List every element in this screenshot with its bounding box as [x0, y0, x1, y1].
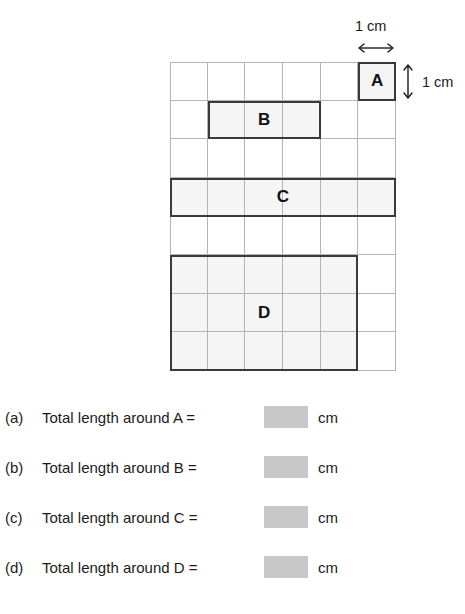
grid-cell	[170, 139, 208, 178]
double-arrow-vertical-icon	[402, 62, 414, 101]
question-row: (c)Total length around C =cm	[0, 492, 465, 542]
question-row: (d)Total length around D =cm	[0, 542, 465, 592]
grid-cell	[208, 139, 246, 178]
grid-cell	[245, 139, 283, 178]
shape-c: C	[170, 178, 396, 217]
shape-b: B	[208, 101, 321, 140]
shape-d: D	[170, 255, 358, 371]
grid-cell	[358, 255, 396, 294]
grid-cell	[321, 62, 359, 101]
grid-cell	[321, 217, 359, 256]
question-text: Total length around D =	[42, 559, 198, 576]
question-text: Total length around A =	[42, 409, 195, 426]
question-marker: (b)	[5, 459, 23, 476]
question-row: (b)Total length around B =cm	[0, 442, 465, 492]
grid-cell	[358, 139, 396, 178]
answer-input-d[interactable]	[264, 556, 308, 578]
grid-cell	[170, 217, 208, 256]
shape-label: C	[277, 187, 289, 207]
unit-label: cm	[318, 409, 338, 426]
question-text: Total length around C =	[42, 509, 198, 526]
grid-cell	[245, 62, 283, 101]
unit-label: cm	[318, 509, 338, 526]
grid-cell	[358, 217, 396, 256]
grid-cell	[358, 332, 396, 371]
grid-cell	[358, 294, 396, 333]
question-marker: (d)	[5, 559, 23, 576]
question-row: (a)Total length around A =cm	[0, 392, 465, 442]
grid-cell	[283, 62, 321, 101]
grid-cell	[321, 139, 359, 178]
shape-label: D	[258, 303, 270, 323]
top-dimension-label: 1 cm	[355, 18, 386, 34]
grid-cell	[283, 217, 321, 256]
question-marker: (a)	[5, 409, 23, 426]
grid-cell	[208, 217, 246, 256]
double-arrow-horizontal-icon	[356, 40, 396, 52]
question-list: (a)Total length around A =cm(b)Total len…	[0, 392, 465, 592]
unit-label: cm	[318, 459, 338, 476]
grid-cell	[208, 62, 246, 101]
grid-cell	[283, 139, 321, 178]
answer-input-b[interactable]	[264, 456, 308, 478]
answer-input-a[interactable]	[264, 406, 308, 428]
answer-input-c[interactable]	[264, 506, 308, 528]
grid-cell	[321, 101, 359, 140]
grid-cell	[170, 62, 208, 101]
grid-cell	[245, 217, 283, 256]
right-dimension-label: 1 cm	[422, 74, 453, 90]
question-text: Total length around B =	[42, 459, 197, 476]
grid-cell	[170, 101, 208, 140]
question-marker: (c)	[5, 509, 23, 526]
measurement-diagram: 1 cm 1 cm ABCD	[0, 0, 465, 392]
shape-label: B	[258, 110, 270, 130]
centimetre-grid: ABCD	[170, 62, 396, 371]
grid-cell	[358, 101, 396, 140]
shape-label: A	[371, 71, 383, 91]
unit-label: cm	[318, 559, 338, 576]
shape-a: A	[358, 62, 396, 101]
